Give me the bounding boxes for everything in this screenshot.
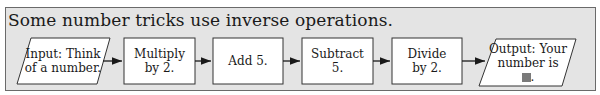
input-step-label: Input: Think of a number.	[22, 38, 104, 84]
answer-blank-box	[522, 73, 531, 82]
divide-step-label: Divide by 2.	[392, 38, 462, 84]
output-step-label: Output: Your number is .	[486, 39, 570, 86]
answer-line: .	[522, 70, 535, 84]
add-step-label: Add 5.	[213, 38, 283, 84]
multiply-step-label: Multiply by 2.	[124, 38, 195, 84]
subtract-step-label: Subtract 5.	[302, 38, 373, 84]
